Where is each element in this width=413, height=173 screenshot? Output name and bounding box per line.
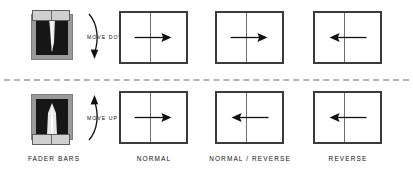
right-arrow-icon <box>121 93 186 142</box>
right-arrow-icon <box>121 13 186 62</box>
monitor-normal-reverse-move-up <box>215 91 284 144</box>
monitor-normal-reverse-move-down <box>215 11 284 64</box>
left-arrow-icon <box>315 13 380 62</box>
fader-waveform-icon <box>36 19 68 55</box>
fader-bar-bottom <box>31 94 73 140</box>
caption-normal-reverse: NORMAL / REVERSE <box>203 155 297 162</box>
move-up-label: MOVE UP <box>87 115 118 121</box>
fader-slot <box>36 99 68 135</box>
right-arrow-icon <box>217 13 282 62</box>
fader-slot <box>36 19 68 55</box>
diagram-canvas: MOVE DOWN <box>0 0 413 173</box>
caption-normal: NORMAL <box>110 155 198 162</box>
caption-reverse: REVERSE <box>303 155 393 162</box>
monitor-reverse-move-down <box>313 11 382 64</box>
monitor-reverse-move-up <box>313 91 382 144</box>
fader-bar-top <box>31 14 73 60</box>
caption-fader-bars: FADER BARS <box>10 155 98 162</box>
left-arrow-icon <box>217 93 282 142</box>
monitor-normal-move-down <box>119 11 188 64</box>
monitor-normal-move-up <box>119 91 188 144</box>
section-divider <box>4 79 409 81</box>
fader-handle[interactable] <box>32 134 70 145</box>
fader-waveform-icon <box>36 99 68 135</box>
left-arrow-icon <box>315 93 380 142</box>
fader-handle[interactable] <box>32 10 70 21</box>
